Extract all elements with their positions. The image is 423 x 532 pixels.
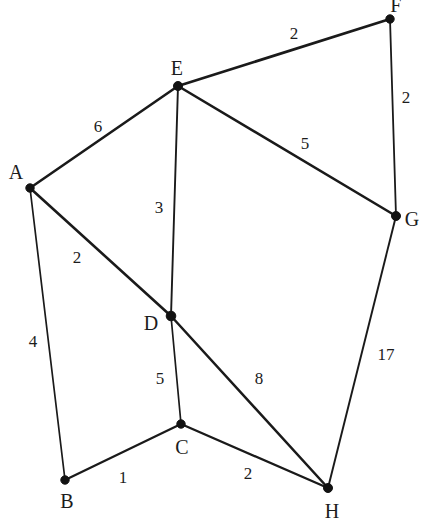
graph-node-g[interactable] — [392, 212, 401, 221]
graph-edge-c-h — [181, 424, 328, 488]
graph-edge-e-g — [178, 86, 396, 216]
edge-weight-a-d: 2 — [73, 249, 82, 266]
graph-canvas — [0, 0, 423, 532]
node-label-f: F — [390, 0, 401, 15]
edge-weight-a-b: 4 — [29, 333, 38, 350]
graph-diagram: 6242532175812ABCDEFGH — [0, 0, 423, 532]
node-label-h: H — [325, 501, 340, 521]
graph-edge-e-d — [171, 86, 178, 316]
edge-weight-e-f: 2 — [290, 25, 299, 42]
graph-edge-e-f — [178, 19, 390, 86]
graph-node-d[interactable] — [166, 311, 176, 321]
edge-weight-e-g: 5 — [301, 135, 310, 152]
edge-weight-d-h: 8 — [255, 370, 264, 387]
edge-weight-b-c: 1 — [119, 469, 128, 486]
graph-node-a[interactable] — [26, 184, 34, 192]
graph-edge-d-h — [171, 316, 328, 488]
edge-weight-a-e: 6 — [94, 118, 103, 135]
graph-node-b[interactable] — [61, 476, 69, 484]
node-label-b: B — [60, 491, 74, 511]
edge-weight-d-c: 5 — [156, 370, 165, 387]
node-label-d: D — [144, 313, 159, 333]
node-label-c: C — [175, 437, 189, 457]
edge-weight-f-g: 2 — [402, 89, 411, 106]
graph-node-c[interactable] — [177, 420, 185, 428]
graph-node-f[interactable] — [386, 15, 394, 23]
graph-edge-a-e — [30, 86, 178, 188]
graph-edge-a-d — [30, 188, 171, 316]
edge-weight-c-h: 2 — [244, 465, 253, 482]
edge-weight-e-d: 3 — [155, 199, 164, 216]
node-label-g: G — [405, 209, 420, 229]
graph-node-e[interactable] — [174, 82, 183, 91]
node-label-a: A — [9, 162, 24, 182]
graph-edge-d-c — [171, 316, 181, 424]
edge-weight-g-h: 17 — [378, 346, 395, 363]
edges-group — [30, 19, 396, 488]
graph-node-h[interactable] — [324, 484, 333, 493]
graph-edge-f-g — [390, 19, 396, 216]
node-label-e: E — [171, 58, 183, 78]
